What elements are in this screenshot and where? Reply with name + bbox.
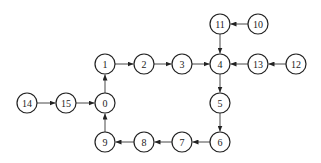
node-3: 3 [172, 54, 192, 74]
node-label: 14 [22, 98, 32, 109]
node-label: 15 [61, 98, 71, 109]
node-label: 8 [142, 137, 147, 148]
node-label: 10 [253, 19, 263, 30]
node-label: 9 [103, 137, 108, 148]
node-label: 0 [103, 98, 108, 109]
node-4: 4 [210, 54, 230, 74]
node-5: 5 [210, 93, 230, 113]
node-label: 2 [142, 59, 147, 70]
node-13: 13 [248, 54, 268, 74]
node-14: 14 [17, 93, 37, 113]
node-6: 6 [210, 132, 230, 152]
nodes-layer: 0123456789101112131415 [17, 14, 306, 152]
node-12: 12 [286, 54, 306, 74]
node-label: 3 [180, 59, 185, 70]
node-label: 12 [291, 59, 301, 70]
node-15: 15 [56, 93, 76, 113]
node-label: 11 [215, 19, 225, 30]
node-2: 2 [134, 54, 154, 74]
node-label: 13 [253, 59, 263, 70]
edges-layer [37, 24, 286, 142]
node-10: 10 [248, 14, 268, 34]
node-9: 9 [95, 132, 115, 152]
node-label: 4 [218, 59, 223, 70]
node-7: 7 [172, 132, 192, 152]
node-8: 8 [134, 132, 154, 152]
node-label: 5 [218, 98, 223, 109]
graph-diagram: 0123456789101112131415 [0, 0, 321, 163]
node-1: 1 [95, 54, 115, 74]
node-label: 6 [218, 137, 223, 148]
node-label: 1 [103, 59, 108, 70]
node-0: 0 [95, 93, 115, 113]
node-label: 7 [180, 137, 185, 148]
graph-svg: 0123456789101112131415 [0, 0, 321, 163]
node-11: 11 [210, 14, 230, 34]
